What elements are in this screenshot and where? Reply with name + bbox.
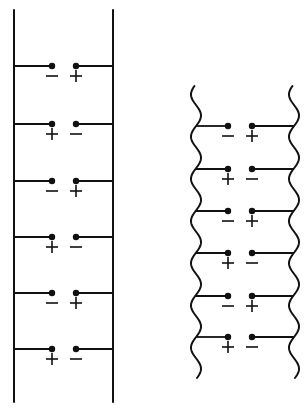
right-terminal-dot [249,250,255,256]
rung [195,293,293,312]
plus-sign [246,130,258,142]
right-terminal-dot [249,334,255,340]
left-terminal-dot [49,234,55,240]
rung [195,166,293,185]
rung [196,334,294,353]
left-terminal-dot [225,334,231,340]
left-terminal-dot [225,123,231,129]
plus-sign [46,241,58,253]
plus-sign [222,257,234,269]
plus-sign [46,128,58,140]
plus-sign [222,173,234,185]
diagram-canvas [0,0,308,409]
rung [14,178,113,197]
plus-sign [46,353,58,365]
left-terminal-dot [49,178,55,184]
left-terminal-dot [49,63,55,69]
left-terminal-dot [225,208,231,214]
right-terminal-dot [249,208,255,214]
right-terminal-dot [73,346,79,352]
left-terminal-dot [225,250,231,256]
right-terminal-dot [73,121,79,127]
rung [14,121,113,140]
left-wavy-rail [191,86,201,378]
right-terminal-dot [73,178,79,184]
rung [14,234,113,253]
left-terminal-dot [49,346,55,352]
right-terminal-dot [73,290,79,296]
rung [14,290,113,309]
rung [196,250,294,269]
rung [196,208,294,227]
right-terminal-dot [249,293,255,299]
left-terminal-dot [225,166,231,172]
right-terminal-dot [73,63,79,69]
right-terminal-dot [73,234,79,240]
plus-sign [70,297,82,309]
plus-sign [222,341,234,353]
plus-sign [70,185,82,197]
left-terminal-dot [49,290,55,296]
rung [14,346,113,365]
rung [196,123,294,142]
ladder-diagram [0,0,308,409]
plus-sign [246,215,258,227]
plus-sign [70,70,82,82]
right-wavy-rail [289,86,299,378]
left-terminal-dot [49,121,55,127]
wavy-ladder [191,86,299,378]
plus-sign [246,300,258,312]
right-terminal-dot [249,123,255,129]
left-terminal-dot [225,293,231,299]
rung [14,63,113,82]
straight-ladder [14,10,113,402]
right-terminal-dot [249,166,255,172]
